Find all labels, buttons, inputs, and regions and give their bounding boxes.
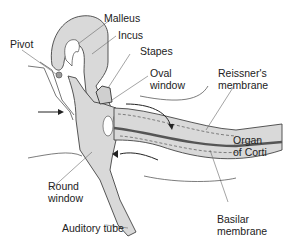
basilar-line1: Basilar	[217, 213, 267, 225]
label-pivot: Pivot	[10, 38, 33, 50]
label-oval-window: Oval window	[150, 67, 185, 91]
label-incus: Incus	[118, 29, 143, 41]
label-reissners-membrane: Reissner's membrane	[218, 67, 268, 91]
label-malleus: Malleus	[104, 12, 140, 24]
round-window-line2: window	[48, 192, 83, 204]
oval-window-line2: window	[150, 79, 185, 91]
label-organ-of-corti: Organ of Corti	[233, 134, 267, 158]
label-stapes: Stapes	[140, 45, 173, 57]
round-window-line1: Round	[48, 180, 83, 192]
reissners-line1: Reissner's	[218, 67, 268, 79]
reissners-line2: membrane	[218, 79, 268, 91]
organ-line1: Organ	[233, 134, 267, 146]
label-basilar-membrane: Basilar membrane	[217, 213, 267, 237]
oval-window-line1: Oval	[150, 67, 185, 79]
label-round-window: Round window	[48, 180, 83, 204]
label-auditory-tube: Auditory tube	[62, 222, 124, 234]
organ-line2: of Corti	[233, 146, 267, 158]
basilar-line2: membrane	[217, 225, 267, 237]
